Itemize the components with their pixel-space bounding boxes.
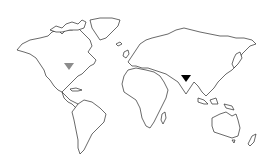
tasmania bbox=[232, 140, 235, 143]
continent-south-america bbox=[72, 100, 106, 154]
caribbean bbox=[70, 88, 82, 91]
southeast-asia-islands bbox=[198, 98, 234, 110]
british-isles bbox=[123, 50, 129, 58]
world-map bbox=[0, 0, 276, 167]
greenland bbox=[90, 18, 120, 40]
continent-north-america bbox=[17, 28, 96, 92]
continent-australia bbox=[212, 112, 240, 138]
iceland bbox=[116, 42, 122, 46]
madagascar bbox=[161, 112, 166, 124]
new-zealand bbox=[248, 134, 256, 146]
marker-north-america-icon[interactable] bbox=[64, 63, 74, 70]
marker-south-asia-icon[interactable] bbox=[181, 75, 191, 82]
